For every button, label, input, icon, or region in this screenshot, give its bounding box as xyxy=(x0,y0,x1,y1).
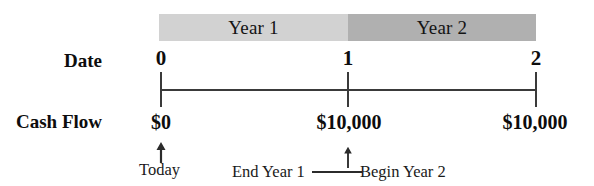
arrow-up-icon-year-boundary xyxy=(343,146,354,168)
date-row-label: Date xyxy=(64,51,102,70)
annotation-today: Today xyxy=(139,162,180,179)
timeline-tick-0 xyxy=(160,72,162,107)
year-band-2: Year 2 xyxy=(348,14,536,41)
annotation-connector-left xyxy=(312,171,348,173)
timeline-tick-2 xyxy=(535,72,537,107)
date-tick-label-1: 1 xyxy=(343,48,354,69)
year-band-2-label: Year 2 xyxy=(417,18,467,37)
cash-flow-value-2: $10,000 xyxy=(503,112,568,132)
cash-flow-value-0: $0 xyxy=(151,112,171,132)
year-band-1-label: Year 1 xyxy=(228,18,278,37)
year-band-1: Year 1 xyxy=(159,14,348,41)
cash-flow-timeline-diagram: Year 1 Year 2 Date Cash Flow 0 1 2 $0 $1… xyxy=(0,0,594,186)
annotation-end-year-1: End Year 1 xyxy=(232,164,305,181)
cash-flow-value-1: $10,000 xyxy=(317,112,382,132)
date-tick-label-2: 2 xyxy=(531,48,542,69)
cash-flow-row-label: Cash Flow xyxy=(16,112,102,131)
timeline-tick-1 xyxy=(347,72,349,107)
annotation-begin-year-2: Begin Year 2 xyxy=(360,164,446,181)
date-tick-label-0: 0 xyxy=(156,48,167,69)
